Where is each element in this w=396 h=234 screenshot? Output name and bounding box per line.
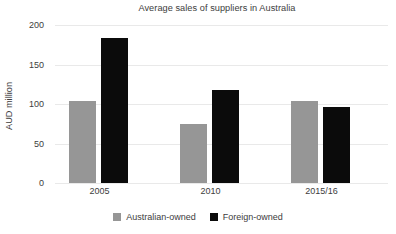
x-axis-tick-label: 2010 (200, 186, 220, 196)
y-axis-tick-label: 200 (4, 20, 44, 30)
bars-layer (55, 25, 388, 183)
y-axis-tick-label: 0 (4, 178, 44, 188)
legend-swatch (210, 213, 218, 221)
x-axis-tick-label: 2005 (89, 186, 109, 196)
legend-item[interactable]: Foreign-owned (210, 212, 283, 222)
legend-item[interactable]: Australian-owned (113, 212, 196, 222)
y-axis-tick-label: 50 (4, 139, 44, 149)
bar (291, 101, 318, 183)
y-axis-label: AUD million (2, 0, 16, 234)
chart-legend: Australian-ownedForeign-owned (0, 212, 396, 222)
x-axis-tick-label: 2015/16 (305, 186, 338, 196)
legend-label: Australian-owned (126, 212, 196, 222)
legend-label: Foreign-owned (223, 212, 283, 222)
bar (101, 38, 128, 183)
bar (69, 101, 96, 183)
gridline (55, 183, 388, 184)
bar (323, 107, 350, 183)
legend-swatch (113, 213, 121, 221)
bar (180, 124, 207, 183)
y-axis-tick-label: 150 (4, 60, 44, 70)
x-axis-labels: 200520102015/16 (55, 186, 388, 202)
chart-title: Average sales of suppliers in Australia (19, 3, 396, 13)
bar-chart: Average sales of suppliers in Australia … (0, 0, 396, 234)
y-axis-tick-label: 100 (4, 99, 44, 109)
bar (212, 90, 239, 183)
plot-area: 050100150200 (55, 25, 388, 183)
